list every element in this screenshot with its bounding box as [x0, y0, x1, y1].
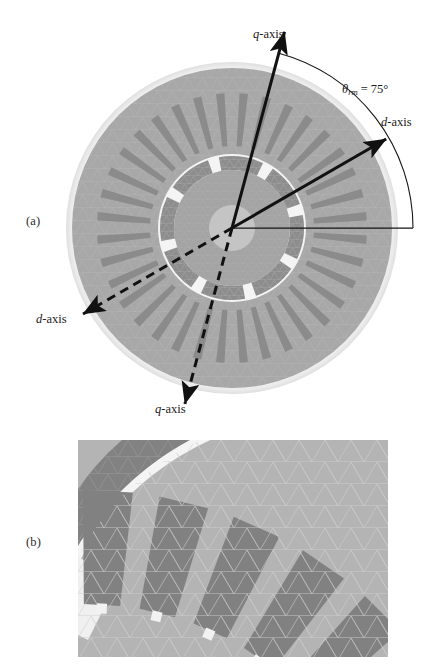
theta-value: 75°	[371, 82, 389, 96]
q-axis-suffix-bottom: -axis	[161, 402, 185, 416]
panel-b-mesh-detail	[78, 440, 388, 657]
panel-a-machine-cross-section: q-axis d-axis θrm = 75° d-axis q-axis	[0, 0, 437, 437]
mesh-detail-drawing	[78, 440, 388, 657]
machine-cross-section-drawing	[0, 0, 437, 437]
rotor-angle-label: θrm = 75°	[342, 83, 388, 96]
q-axis-label-top: q-axis	[253, 28, 284, 41]
d-axis-suffix-right: -axis	[387, 115, 411, 129]
panel-label-b: (b)	[26, 535, 41, 550]
q-axis-suffix-top: -axis	[259, 27, 283, 41]
d-axis-suffix-left: -axis	[42, 312, 66, 326]
d-axis-label-right: d-axis	[381, 116, 412, 129]
theta-equals: =	[358, 82, 371, 96]
detail-tooth-tip	[97, 603, 108, 614]
theta-subscript: rm	[348, 87, 357, 97]
panel-label-a: (a)	[26, 214, 40, 229]
figure-root: q-axis d-axis θrm = 75° d-axis q-axis	[0, 0, 437, 665]
q-axis-label-bottom: q-axis	[155, 403, 186, 416]
d-axis-label-lower-left: d-axis	[36, 313, 67, 326]
